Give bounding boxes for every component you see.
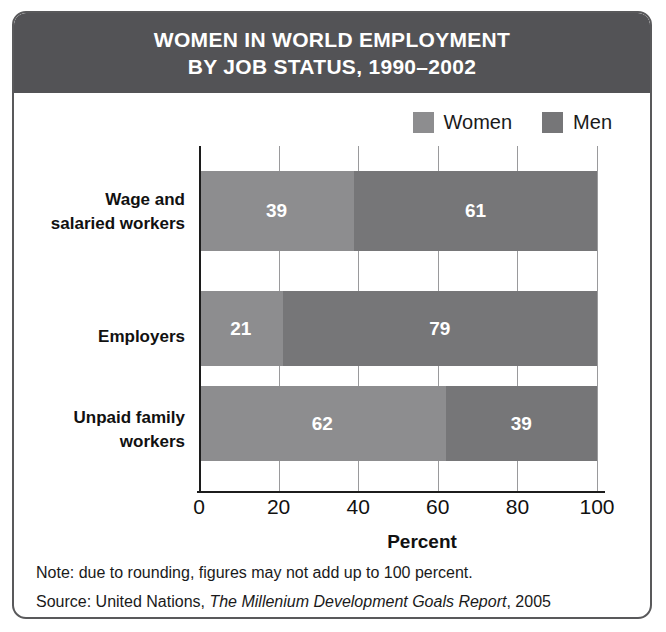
legend-label-women: Women xyxy=(444,111,513,134)
chart-legend: Women Men xyxy=(413,111,612,134)
bar-row: 3961 xyxy=(199,171,597,251)
note-text: Note: due to rounding, figures may not a… xyxy=(36,564,473,582)
category-label-unpaid-family-workers: Unpaid family workers xyxy=(12,406,185,454)
category-label-line-1: Wage and xyxy=(12,188,185,212)
legend-swatch-men xyxy=(542,112,563,133)
bar-segment-men: 61 xyxy=(354,171,597,251)
chart-title-line-2: BY JOB STATUS, 1990–2002 xyxy=(188,53,477,80)
legend-item-men: Men xyxy=(542,111,612,134)
legend-item-women: Women xyxy=(413,111,513,134)
chart-title-line-1: WOMEN IN WORLD EMPLOYMENT xyxy=(154,26,510,53)
bar-value-label: 39 xyxy=(511,413,532,435)
legend-swatch-women xyxy=(413,112,434,133)
category-label-line-1: Unpaid family xyxy=(12,406,185,430)
x-tick-label-40: 40 xyxy=(347,495,370,519)
category-label-employers: Employers xyxy=(12,325,185,349)
x-tick-label-20: 20 xyxy=(267,495,290,519)
gridline-100 xyxy=(597,146,598,491)
source-prefix: Source: United Nations, xyxy=(36,593,209,610)
legend-label-men: Men xyxy=(573,111,612,134)
source-text: Source: United Nations, The Millenium De… xyxy=(36,593,551,611)
bar-segment-men: 79 xyxy=(283,291,597,366)
bar-row: 6239 xyxy=(199,386,597,461)
bar-value-label: 21 xyxy=(230,318,251,340)
bar-segment-men: 39 xyxy=(446,386,597,461)
source-publication-title: The Millenium Development Goals Report xyxy=(209,593,506,610)
bar-value-label: 61 xyxy=(465,200,486,222)
x-axis-title: Percent xyxy=(14,531,650,553)
bar-value-label: 79 xyxy=(429,318,450,340)
bar-value-label: 39 xyxy=(266,200,287,222)
category-label-line-1: Employers xyxy=(12,325,185,349)
x-axis-line xyxy=(197,491,605,493)
bar-segment-women: 62 xyxy=(199,386,446,461)
bar-value-label: 62 xyxy=(312,413,333,435)
category-label-line-2: workers xyxy=(12,430,185,454)
plot-area: 396121796239 xyxy=(199,146,597,491)
category-label-wage-and-salaried-workers: Wage and salaried workers xyxy=(12,188,185,236)
x-tick-label-100: 100 xyxy=(579,495,614,519)
category-label-line-2: salaried workers xyxy=(12,212,185,236)
x-tick-label-80: 80 xyxy=(506,495,529,519)
x-tick-label-0: 0 xyxy=(193,495,205,519)
x-tick-label-60: 60 xyxy=(426,495,449,519)
bar-segment-women: 39 xyxy=(199,171,354,251)
bar-row: 2179 xyxy=(199,291,597,366)
bar-segment-women: 21 xyxy=(199,291,283,366)
source-suffix: , 2005 xyxy=(506,593,550,610)
chart-figure: WOMEN IN WORLD EMPLOYMENT BY JOB STATUS,… xyxy=(12,11,652,619)
chart-title-banner: WOMEN IN WORLD EMPLOYMENT BY JOB STATUS,… xyxy=(14,13,650,93)
y-axis-line xyxy=(199,146,201,491)
